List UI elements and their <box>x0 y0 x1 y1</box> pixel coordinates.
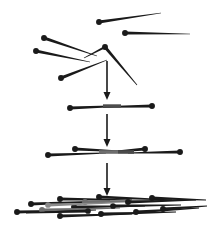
read-endpoint-dot-c3g <box>149 195 155 201</box>
read-endpoint-dot-c3p <box>45 202 51 208</box>
assembly-diagram-canvas <box>0 0 214 227</box>
read-endpoint-dot-c3o <box>85 208 91 214</box>
read-endpoint-dot-c3a <box>28 201 34 207</box>
read-endpoint-dot-c3l <box>133 209 139 215</box>
read-segment-c2ov1 <box>99 150 118 154</box>
read-endpoint-dot-c3b <box>57 196 63 202</box>
read-segment-c2ov2 <box>118 150 134 154</box>
read-endpoint-dot-c3m <box>160 206 166 212</box>
read-endpoint-dot-c3k <box>98 211 104 217</box>
read-endpoint-dot-c2c <box>142 146 148 152</box>
read-endpoint-dot-c2a <box>45 152 51 158</box>
read-endpoint-dot-r1 <box>96 19 102 25</box>
read-endpoint-dot-c3n <box>110 203 116 209</box>
read-endpoint-dot-r4 <box>33 48 39 54</box>
read-endpoint-dot-r2 <box>122 30 128 36</box>
read-endpoint-dot-r5 <box>58 75 64 81</box>
read-endpoint-dot-c3e <box>96 194 102 200</box>
read-endpoint-dot-c3j <box>57 213 63 219</box>
read-endpoint-dot-c3f <box>125 199 131 205</box>
read-endpoint-dot-c1b <box>149 103 155 109</box>
read-endpoint-dot-c2d <box>177 149 183 155</box>
read-endpoint-dot-r3 <box>41 35 47 41</box>
read-endpoint-dot-c3h <box>14 209 20 215</box>
assembly-diagram-figure <box>0 0 214 227</box>
read-segment-c1overlap <box>103 104 121 107</box>
read-endpoint-dot-c1a <box>67 105 73 111</box>
read-endpoint-dot-c2b <box>72 146 78 152</box>
